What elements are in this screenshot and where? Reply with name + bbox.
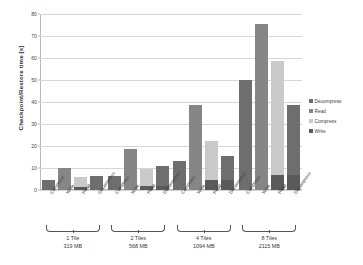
bar[interactable] — [221, 14, 234, 190]
x-axis-labels: CompressWriteReadDecompressCompressWrite… — [40, 191, 302, 227]
bar-segment — [205, 141, 218, 181]
group-caption-size: 319 MB — [40, 243, 106, 251]
group-caption-size: 1094 MB — [171, 243, 237, 251]
brace-stem — [73, 230, 74, 233]
legend-item[interactable]: Compress — [309, 116, 361, 126]
legend-swatch-icon — [309, 99, 313, 103]
y-tick-label: 0 — [34, 187, 37, 193]
y-tick-label: 80 — [31, 11, 37, 17]
group-caption: 4 Tiles1094 MB — [171, 235, 237, 259]
x-label-slot: Write — [255, 191, 268, 227]
legend-item[interactable]: Decompress — [309, 96, 361, 106]
brace-stem — [204, 230, 205, 233]
x-label-slot: Decompress — [90, 191, 103, 227]
x-label-slot: Decompress — [221, 191, 234, 227]
x-label-slot: Compress — [239, 191, 252, 227]
legend-label: Read — [315, 109, 326, 114]
brace-cell — [40, 225, 106, 234]
plot-area: 01020304050607080 — [40, 14, 302, 190]
bar-segment — [221, 156, 234, 180]
x-label-slot: Compress — [108, 191, 121, 227]
x-label-slot: Compress — [42, 191, 55, 227]
bar[interactable] — [156, 14, 169, 190]
y-axis-title: Checkpoint/Restore time [s] — [14, 8, 28, 168]
bar[interactable] — [108, 14, 121, 190]
x-label-slot: Decompress — [287, 191, 300, 227]
y-tick-label: 60 — [31, 55, 37, 61]
group-caption-size: 568 MB — [106, 243, 172, 251]
bar[interactable] — [90, 14, 103, 190]
bar[interactable] — [271, 14, 284, 190]
group-captions: 1 Tile319 MB2 Tiles568 MB4 Tiles1094 MB8… — [40, 235, 302, 259]
bar-segment — [271, 61, 284, 174]
legend-label: Decompress — [315, 99, 342, 104]
x-label-group: CompressWriteReadDecompress — [171, 191, 237, 227]
x-label-slot: Read — [140, 191, 153, 227]
brace-cell — [106, 225, 172, 234]
x-label-group: CompressWriteReadDecompress — [40, 191, 106, 227]
y-tick-label: 40 — [31, 99, 37, 105]
bar[interactable] — [42, 14, 55, 190]
x-label-group: CompressWriteReadDecompress — [237, 191, 303, 227]
bar[interactable] — [189, 14, 202, 190]
legend-item[interactable]: Read — [309, 106, 361, 116]
y-tick-label: 70 — [31, 33, 37, 39]
bar-segment — [287, 105, 300, 175]
legend-swatch-icon — [309, 109, 313, 113]
chart-legend: DecompressReadCompressWrite — [309, 96, 361, 136]
x-label-slot: Compress — [173, 191, 186, 227]
legend-item[interactable]: Write — [309, 126, 361, 136]
bar[interactable] — [124, 14, 137, 190]
bar[interactable] — [74, 14, 87, 190]
x-label-slot: Decompress — [156, 191, 169, 227]
bar[interactable] — [287, 14, 300, 190]
x-label-slot: Read — [74, 191, 87, 227]
x-label-slot: Read — [271, 191, 284, 227]
legend-swatch-icon — [309, 119, 313, 123]
x-label-slot: Write — [189, 191, 202, 227]
legend-label: Write — [315, 129, 326, 134]
bar[interactable] — [58, 14, 71, 190]
bar-group — [171, 14, 237, 190]
x-label-slot: Read — [205, 191, 218, 227]
bar[interactable] — [255, 14, 268, 190]
group-braces — [40, 225, 302, 234]
group-caption: 8 Tiles2115 MB — [237, 235, 303, 259]
y-tick-label: 20 — [31, 143, 37, 149]
x-label-group: CompressWriteReadDecompress — [106, 191, 172, 227]
group-caption: 2 Tiles568 MB — [106, 235, 172, 259]
bar-group — [106, 14, 172, 190]
bar-segment — [255, 24, 268, 190]
brace-cell — [171, 225, 237, 234]
x-label-slot: Write — [124, 191, 137, 227]
bar[interactable] — [239, 14, 252, 190]
group-caption-name: 2 Tiles — [106, 235, 172, 243]
group-caption-name: 8 Tiles — [237, 235, 303, 243]
y-tick-label: 50 — [31, 77, 37, 83]
bar-group — [40, 14, 106, 190]
bar[interactable] — [205, 14, 218, 190]
group-caption-name: 1 Tile — [40, 235, 106, 243]
chart-container: Checkpoint/Restore time [s] 010203040506… — [0, 0, 363, 265]
brace-stem — [138, 230, 139, 233]
legend-swatch-icon — [309, 129, 313, 133]
group-caption-size: 2115 MB — [237, 243, 303, 251]
bar-groups — [40, 14, 302, 190]
x-label-slot: Write — [58, 191, 71, 227]
legend-label: Compress — [315, 119, 337, 124]
y-tick-label: 30 — [31, 121, 37, 127]
bar-group — [237, 14, 303, 190]
group-caption-name: 4 Tiles — [171, 235, 237, 243]
bar[interactable] — [173, 14, 186, 190]
brace-cell — [237, 225, 303, 234]
group-caption: 1 Tile319 MB — [40, 235, 106, 259]
y-tick-label: 10 — [31, 165, 37, 171]
brace-stem — [269, 230, 270, 233]
bar[interactable] — [140, 14, 153, 190]
